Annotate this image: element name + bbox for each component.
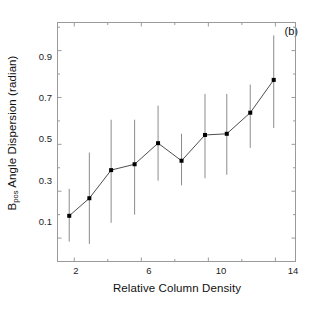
- error-bar-group: [69, 35, 273, 244]
- data-point: [225, 132, 229, 136]
- data-point: [248, 111, 252, 115]
- data-point: [109, 168, 113, 172]
- data-point: [133, 162, 137, 166]
- data-point: [203, 133, 207, 137]
- data-point: [67, 214, 71, 218]
- plot-frame: [58, 23, 296, 262]
- axis-ticks: [58, 23, 296, 262]
- data-point: [87, 196, 91, 200]
- data-line: [69, 80, 273, 216]
- data-point: [272, 78, 276, 82]
- figure-panel-b: Bpos Angle Dispersion (radian) 0.9 0.7 0…: [0, 0, 312, 309]
- data-marker-group: [67, 78, 275, 218]
- data-point: [156, 141, 160, 145]
- data-point: [180, 159, 184, 163]
- plot-area: [0, 0, 312, 309]
